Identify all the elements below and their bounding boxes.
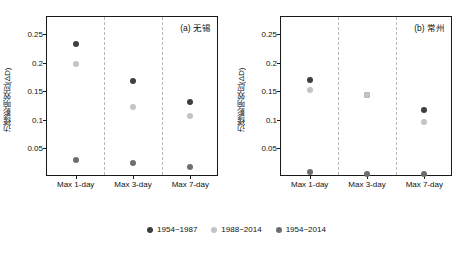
x-tick-label: Max 1-day [291,180,328,189]
y-tick-mark [43,91,47,92]
data-point [73,41,79,47]
x-tick-label: Max 3-day [348,180,385,189]
y-tick-mark [277,91,281,92]
y-tick-label: 0.25 [255,30,277,39]
legend: 1954~19871988~20141954~2014 [0,225,473,234]
data-point [364,92,370,98]
data-point [130,160,136,166]
y-tick-label: 0.25 [21,30,43,39]
data-point [307,77,313,83]
y-tick-label: 0.1 [21,115,43,124]
panel-a-plot-area: (a) 无锡 0.050.10.150.20.25Max 1-dayMax 3-… [46,16,218,176]
x-tick-label: Max 7-day [172,180,209,189]
y-tick-mark [277,63,281,64]
data-point [307,169,313,175]
y-tick-label: 0.15 [255,87,277,96]
panel-a-y-axis-label: 边缘影响效应(ΔD) [0,30,16,170]
legend-item: 1988~2014 [211,225,261,234]
x-tick-mark [133,175,134,179]
y-tick-mark [43,63,47,64]
legend-label: 1988~2014 [221,225,261,234]
data-point [187,99,193,105]
y-tick-label: 0.15 [21,87,43,96]
panel-b-y-axis-label: 边缘影响效应(ΔD) [234,30,250,170]
legend-label: 1954~2014 [286,225,326,234]
x-tick-label: Max 1-day [57,180,94,189]
panel-b: (b) 常州 0.050.10.150.20.25Max 1-dayMax 3-… [250,8,460,198]
category-separator [162,17,163,175]
legend-marker-icon [276,227,282,233]
y-tick-mark [277,120,281,121]
data-point [187,164,193,170]
data-point [421,171,427,177]
panel-b-plot-area: (b) 常州 0.050.10.150.20.25Max 1-dayMax 3-… [280,16,452,176]
data-point [130,104,136,110]
category-separator [104,17,105,175]
x-tick-mark [190,175,191,179]
category-separator [396,17,397,175]
x-tick-mark [310,175,311,179]
y-tick-mark [43,148,47,149]
y-tick-label: 0.05 [255,144,277,153]
data-point [421,119,427,125]
data-point [187,113,193,119]
figure-root: 边缘影响效应(ΔD) (a) 无锡 0.050.10.150.20.25Max … [0,0,473,254]
y-tick-mark [43,34,47,35]
y-tick-mark [43,120,47,121]
data-point [364,171,370,177]
x-tick-mark [76,175,77,179]
legend-marker-icon [147,227,153,233]
y-tick-label: 0.2 [255,58,277,67]
data-point [73,157,79,163]
legend-item: 1954~1987 [147,225,197,234]
data-point [307,87,313,93]
legend-label: 1954~1987 [157,225,197,234]
y-tick-label: 0.2 [21,58,43,67]
data-point [130,78,136,84]
x-tick-label: Max 3-day [114,180,151,189]
category-separator [338,17,339,175]
panel-a: (a) 无锡 0.050.10.150.20.25Max 1-dayMax 3-… [16,8,226,198]
panel-b-title: (b) 常州 [414,21,445,33]
y-tick-label: 0.1 [255,115,277,124]
y-tick-mark [277,148,281,149]
y-tick-label: 0.05 [21,144,43,153]
x-tick-label: Max 7-day [406,180,443,189]
legend-marker-icon [211,227,217,233]
y-tick-mark [277,34,281,35]
data-point [421,107,427,113]
data-point [73,61,79,67]
panel-a-title: (a) 无锡 [180,21,211,33]
legend-item: 1954~2014 [276,225,326,234]
